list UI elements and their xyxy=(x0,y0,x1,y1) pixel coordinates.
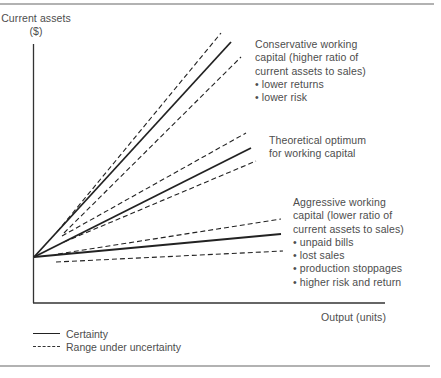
solid-line-icon xyxy=(33,333,60,334)
y-axis-label-line2: ($) xyxy=(0,25,72,38)
annotation-aggressive: Aggressive working capital (lower ratio … xyxy=(293,196,404,289)
legend-label-uncertainty: Range under uncertainty xyxy=(66,341,181,353)
y-axis-label: Current assets($) xyxy=(0,12,72,39)
legend-label-certainty: Certainty xyxy=(66,328,108,340)
conservative-upper-line xyxy=(57,33,221,232)
legend-item-uncertainty: Range under uncertainty xyxy=(33,340,181,353)
optimum-upper-line xyxy=(62,133,246,236)
legend-item-certainty: Certainty xyxy=(33,327,108,340)
y-axis-label-line1: Current assets xyxy=(0,12,72,25)
conservative-lower-line xyxy=(64,57,241,233)
x-axis-label: Output (units) xyxy=(318,311,386,324)
dashed-line-icon xyxy=(33,346,60,347)
annotation-conservative: Conservative working capital (higher rat… xyxy=(255,38,366,104)
series-lines xyxy=(34,33,283,262)
optimum-lower-line xyxy=(64,161,256,242)
annotation-optimum: Theoretical optimum for working capital xyxy=(269,134,366,161)
